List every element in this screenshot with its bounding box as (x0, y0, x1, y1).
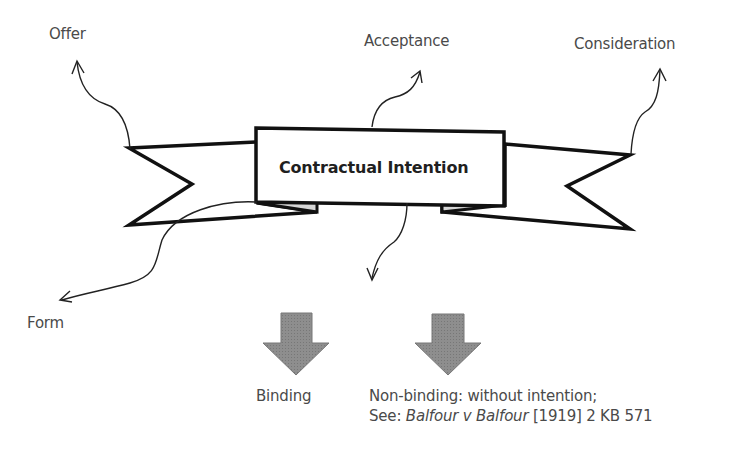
case-see-prefix: See: (369, 407, 406, 425)
label-form: Form (27, 314, 64, 332)
binding-down-arrow-icon (263, 313, 329, 375)
label-consideration: Consideration (574, 35, 675, 53)
label-acceptance: Acceptance (364, 32, 449, 50)
diagram-canvas (0, 0, 735, 453)
banner-title: Contractual Intention (279, 158, 468, 177)
outcome-connector (372, 203, 407, 278)
case-name: Balfour v Balfour (406, 407, 529, 425)
acceptance-connector (372, 72, 420, 127)
case-reference: [1919] 2 KB 571 (528, 407, 652, 425)
non-binding-down-arrow-icon (415, 314, 481, 375)
label-offer: Offer (49, 25, 86, 43)
form-arrowhead-icon (60, 291, 72, 302)
offer-connector (77, 62, 130, 149)
label-binding: Binding (256, 387, 311, 405)
consideration-connector (631, 70, 660, 154)
label-non-binding: Non-binding: without intention; (369, 387, 597, 405)
case-citation: See: Balfour v Balfour [1919] 2 KB 571 (369, 407, 652, 425)
